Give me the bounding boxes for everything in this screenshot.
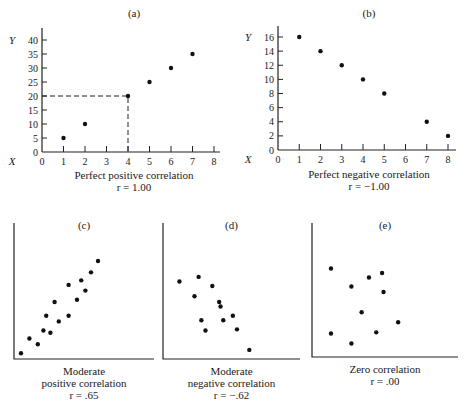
y-tick-label: 8 bbox=[269, 88, 274, 99]
x-tick-label: 4 bbox=[126, 156, 131, 167]
data-point bbox=[83, 122, 87, 126]
panel-title: (e) bbox=[379, 219, 392, 232]
caption: negative correlation bbox=[188, 377, 276, 389]
data-point bbox=[446, 134, 450, 138]
y-tick-label: 20 bbox=[28, 91, 38, 102]
data-point bbox=[75, 298, 79, 302]
data-point bbox=[221, 318, 225, 322]
correlation-figure: (a)0123456780510152025303540XYPerfect po… bbox=[0, 0, 465, 404]
data-point bbox=[359, 310, 363, 314]
x-tick-label: 8 bbox=[212, 156, 217, 167]
y-axis-label: Y bbox=[9, 34, 17, 46]
panel-c: (c)Moderatepositive correlationr = .65 bbox=[14, 219, 154, 401]
panel-e: (e)Zero correlationr = .00 bbox=[312, 219, 458, 387]
data-point bbox=[57, 319, 61, 323]
data-point bbox=[196, 275, 200, 279]
axes bbox=[163, 223, 300, 359]
y-tick-label: 12 bbox=[264, 60, 274, 71]
data-point bbox=[61, 136, 65, 140]
caption: Zero correlation bbox=[349, 363, 421, 375]
data-point bbox=[318, 49, 322, 53]
data-point bbox=[382, 91, 386, 95]
y-tick-label: 0 bbox=[33, 147, 38, 158]
y-tick-label: 30 bbox=[28, 63, 38, 74]
caption: positive correlation bbox=[41, 377, 127, 389]
x-tick-label: 7 bbox=[190, 156, 195, 167]
data-point bbox=[380, 271, 384, 275]
data-point bbox=[374, 330, 378, 334]
y-tick-label: 2 bbox=[269, 130, 274, 141]
data-point bbox=[27, 336, 31, 340]
x-tick-label: 2 bbox=[318, 154, 323, 165]
caption: Moderate bbox=[210, 365, 252, 377]
data-point bbox=[199, 318, 203, 322]
x-tick-label: 3 bbox=[104, 156, 109, 167]
data-point bbox=[66, 283, 70, 287]
panel-title: (d) bbox=[225, 219, 238, 232]
y-tick-label: 15 bbox=[28, 105, 38, 116]
data-point bbox=[52, 300, 56, 304]
data-point bbox=[44, 313, 48, 317]
data-point bbox=[349, 284, 353, 288]
data-point bbox=[89, 270, 93, 274]
data-point bbox=[367, 275, 371, 279]
data-point bbox=[177, 279, 181, 283]
x-tick-label: 0 bbox=[40, 156, 45, 167]
data-point bbox=[217, 300, 221, 304]
x-tick-label: 7 bbox=[424, 154, 429, 165]
panel-title: (b) bbox=[363, 7, 376, 20]
caption: Perfect negative correlation bbox=[308, 168, 430, 180]
data-point bbox=[297, 35, 301, 39]
panel-b: (b)0123456780246810121416XYPerfect negat… bbox=[244, 7, 456, 192]
data-point bbox=[340, 63, 344, 67]
data-point bbox=[349, 341, 353, 345]
data-point bbox=[361, 77, 365, 81]
x-tick-label: 5 bbox=[382, 154, 387, 165]
data-point bbox=[79, 278, 83, 282]
data-point bbox=[126, 94, 130, 98]
correlation-coefficient: r = .65 bbox=[69, 389, 99, 401]
x-tick-label: 6 bbox=[403, 154, 408, 165]
data-point bbox=[19, 351, 23, 355]
data-point bbox=[169, 66, 173, 70]
y-tick-label: 35 bbox=[28, 49, 38, 60]
y-tick-label: 40 bbox=[28, 35, 38, 46]
y-tick-label: 14 bbox=[264, 46, 274, 57]
panel-a: (a)0123456780510152025303540XYPerfect po… bbox=[8, 7, 220, 193]
data-point bbox=[36, 342, 40, 346]
data-point bbox=[83, 288, 87, 292]
data-point bbox=[329, 331, 333, 335]
y-tick-label: 5 bbox=[33, 133, 38, 144]
caption: Perfect positive correlation bbox=[74, 169, 194, 181]
data-point bbox=[235, 327, 239, 331]
x-tick-label: 3 bbox=[339, 154, 344, 165]
data-point bbox=[203, 328, 207, 332]
data-point bbox=[41, 328, 45, 332]
x-tick-label: 6 bbox=[169, 156, 174, 167]
x-tick-label: 4 bbox=[361, 154, 366, 165]
data-point bbox=[147, 80, 151, 84]
data-point bbox=[381, 290, 385, 294]
correlation-coefficient: r = −1.00 bbox=[349, 180, 390, 192]
y-tick-label: 25 bbox=[28, 77, 38, 88]
data-point bbox=[48, 331, 52, 335]
axes bbox=[312, 223, 458, 357]
data-point bbox=[247, 348, 251, 352]
x-tick-label: 8 bbox=[446, 154, 451, 165]
data-point bbox=[210, 284, 214, 288]
data-point bbox=[396, 320, 400, 324]
x-tick-label: 5 bbox=[147, 156, 152, 167]
panel-title: (a) bbox=[128, 7, 141, 20]
data-point bbox=[425, 120, 429, 124]
y-tick-label: 6 bbox=[269, 102, 274, 113]
panel-title: (c) bbox=[78, 219, 91, 232]
panel-d: (d)Moderatenegative correlationr = −.62 bbox=[163, 219, 300, 401]
correlation-coefficient: r = .00 bbox=[370, 375, 400, 387]
y-axis-label: Y bbox=[245, 31, 253, 43]
y-tick-label: 10 bbox=[28, 119, 38, 130]
y-tick-label: 0 bbox=[269, 145, 274, 156]
data-point bbox=[218, 304, 222, 308]
data-point bbox=[190, 52, 194, 56]
y-tick-label: 10 bbox=[264, 74, 274, 85]
caption: Moderate bbox=[63, 365, 105, 377]
